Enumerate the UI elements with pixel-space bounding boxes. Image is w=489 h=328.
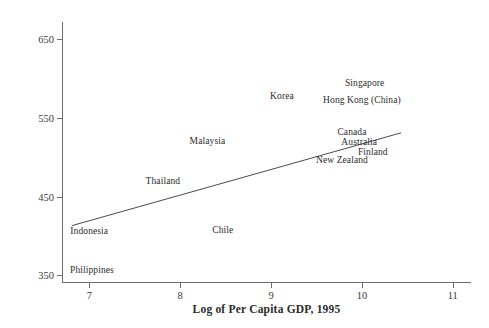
y-tick-mark	[57, 39, 62, 40]
data-point-label: Thailand	[146, 176, 181, 186]
x-tick-mark	[453, 283, 454, 288]
x-tick-mark	[271, 283, 272, 288]
data-point-label: Malaysia	[190, 136, 226, 146]
x-axis-line	[62, 282, 471, 283]
x-tick-mark	[362, 283, 363, 288]
x-tick-label: 7	[87, 290, 92, 301]
regression-line	[62, 22, 471, 283]
y-tick-label: 350	[38, 270, 54, 281]
data-point-label: New Zealand	[316, 155, 368, 165]
x-tick-label: 10	[357, 290, 368, 301]
y-axis-line	[62, 22, 63, 283]
data-point-label: Canada	[337, 127, 366, 137]
x-tick-label: 11	[448, 290, 458, 301]
y-tick-label: 650	[38, 34, 54, 45]
x-tick-label: 9	[268, 290, 273, 301]
x-tick-mark	[180, 283, 181, 288]
y-tick-mark	[57, 197, 62, 198]
y-tick-mark	[57, 275, 62, 276]
data-point-label: Chile	[212, 225, 233, 235]
data-point-label: Finland	[358, 147, 388, 157]
data-point-label: Korea	[270, 91, 294, 101]
x-tick-mark	[89, 283, 90, 288]
y-axis-title: Mathematics Score, 1998 TIMSS	[0, 0, 22, 328]
x-axis-title: Log of Per Capita GDP, 1995	[62, 303, 471, 315]
data-point-label: Hong Kong (China)	[323, 95, 401, 105]
plot-area: 350450550650 7891011 PhilippinesIndonesi…	[62, 22, 471, 283]
x-tick-label: 8	[178, 290, 183, 301]
scatter-chart-figure: Mathematics Score, 1998 TIMSS Log of Per…	[0, 0, 489, 328]
y-tick-label: 550	[38, 112, 54, 123]
y-tick-label: 450	[38, 191, 54, 202]
data-point-label: Philippines	[70, 265, 114, 275]
data-point-label: Singapore	[345, 78, 384, 88]
y-tick-mark	[57, 118, 62, 119]
data-point-label: Indonesia	[70, 226, 108, 236]
